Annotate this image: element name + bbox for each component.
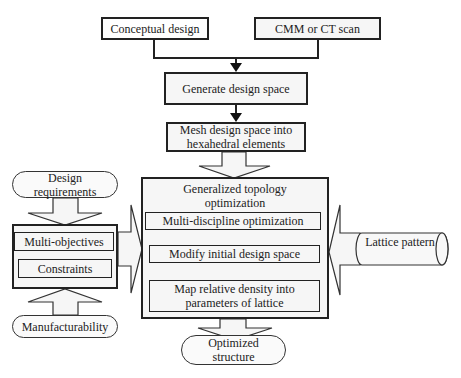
mesh-design-space-box: Mesh design space into hexahedral elemen… [166,122,306,152]
conceptual-design-label: Conceptual design [111,22,200,36]
generate-design-space-box: Generate design space [164,72,308,105]
block-arrow-right-icon [118,205,142,293]
design-requirements-oval: Design requirements [12,171,118,198]
modify-design-space-box: Modify initial design space [149,245,320,263]
generate-design-space-label: Generate design space [182,82,289,96]
multi-objectives-box: Multi-objectives [14,232,114,251]
merge-line [154,40,318,58]
generalized-topology-title: Generalized topology optimization [143,182,327,210]
map-relative-density-box: Map relative density into parameters of … [149,280,320,312]
multi-discipline-label: Multi-discipline optimization [163,214,304,228]
lattice-pattern-label: Lattice pattern [362,235,438,249]
block-arrow-up-icon [28,289,102,315]
block-arrow-left-icon [329,205,360,295]
constraints-label: Constraints [38,262,93,276]
optimized-structure-label: Optimized structure [204,336,263,364]
mesh-design-space-label: Mesh design space into hexahedral elemen… [172,123,300,151]
constraints-box: Constraints [18,259,112,278]
multi-objectives-label: Multi-objectives [24,235,103,249]
multi-discipline-optimization-box: Multi-discipline optimization [145,212,321,230]
block-arrow-down-icon [199,152,270,178]
manufacturability-label: Manufacturability [22,320,109,334]
design-requirements-label: Design requirements [27,171,103,199]
block-arrow-down-icon [28,198,102,225]
cmm-ct-scan-box: CMM or CT scan [254,17,381,40]
conceptual-design-box: Conceptual design [101,17,209,40]
arrow-down-icon [230,63,242,72]
modify-design-space-label: Modify initial design space [169,247,300,261]
manufacturability-oval: Manufacturability [12,315,118,338]
map-relative-density-label: Map relative density into parameters of … [164,282,305,310]
cmm-ct-scan-label: CMM or CT scan [275,22,360,36]
optimized-structure-oval: Optimized structure [181,335,286,365]
arrow-down-icon [230,113,242,122]
